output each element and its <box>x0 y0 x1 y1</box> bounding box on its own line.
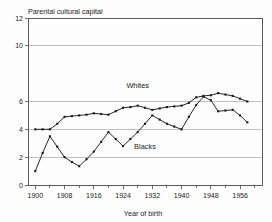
y-tick-label-4: 4 <box>19 126 23 133</box>
series-whites <box>34 92 248 130</box>
data-point <box>85 114 87 116</box>
y-axis-ticks: 02461012 <box>15 15 28 189</box>
chart-figure: 02461012 1900190819161924193219401948195… <box>0 0 272 222</box>
data-point <box>195 104 197 106</box>
data-point <box>93 151 95 153</box>
data-point <box>232 109 234 111</box>
parental-cultural-capital-line-chart: 02461012 1900190819161924193219401948195… <box>0 0 272 222</box>
data-point <box>166 106 168 108</box>
data-point <box>115 138 117 140</box>
data-point <box>202 96 204 98</box>
data-point <box>239 98 241 100</box>
data-point <box>49 135 51 137</box>
x-tick-label-1956: 1956 <box>232 192 248 199</box>
x-tick-label-1948: 1948 <box>203 192 219 199</box>
data-point <box>166 123 168 125</box>
data-point <box>210 99 212 101</box>
data-point <box>64 156 66 158</box>
series-annotation-whites: Whites <box>126 81 149 90</box>
x-tick-label-1924: 1924 <box>115 192 131 199</box>
data-point <box>151 114 153 116</box>
data-point <box>181 105 183 107</box>
y-tick-label-10: 10 <box>15 42 23 49</box>
series-annotation-blacks: Blacks <box>134 142 156 151</box>
data-point <box>115 110 117 112</box>
y-tick-label-0: 0 <box>19 182 23 189</box>
data-point <box>159 107 161 109</box>
data-point <box>100 113 102 115</box>
data-point <box>122 107 124 109</box>
y-tick-label-6: 6 <box>19 98 23 105</box>
data-point <box>137 105 139 107</box>
y-tick-label-2: 2 <box>19 154 23 161</box>
data-point <box>151 109 153 111</box>
data-point <box>100 141 102 143</box>
gridlines-group <box>28 46 262 157</box>
data-point <box>144 107 146 109</box>
data-point <box>224 110 226 112</box>
x-tick-label-1940: 1940 <box>174 192 190 199</box>
data-point <box>232 95 234 97</box>
data-point <box>93 112 95 114</box>
data-point <box>217 110 219 112</box>
data-point <box>188 102 190 104</box>
data-point <box>71 115 73 117</box>
data-point <box>34 170 36 172</box>
data-point <box>85 158 87 160</box>
data-point <box>64 116 66 118</box>
x-axis-ticks: 19001908191619241932194019481956 <box>28 185 255 199</box>
data-series-group <box>34 92 248 172</box>
series-line-whites <box>35 93 247 129</box>
data-point <box>246 121 248 123</box>
data-point <box>56 146 58 148</box>
data-point <box>246 100 248 102</box>
data-point <box>42 152 44 154</box>
data-point <box>188 116 190 118</box>
data-point <box>195 96 197 98</box>
data-point <box>129 106 131 108</box>
data-point <box>122 145 124 147</box>
data-point <box>210 94 212 96</box>
data-point <box>78 114 80 116</box>
data-point <box>34 128 36 130</box>
x-tick-label-1900: 1900 <box>28 192 44 199</box>
data-point <box>137 131 139 133</box>
data-point <box>107 114 109 116</box>
data-point <box>224 93 226 95</box>
data-point <box>49 128 51 130</box>
x-tick-label-1908: 1908 <box>57 192 73 199</box>
data-point <box>42 128 44 130</box>
data-point <box>71 161 73 163</box>
data-point <box>78 165 80 167</box>
x-tick-label-1932: 1932 <box>145 192 161 199</box>
data-point <box>107 131 109 133</box>
data-point <box>173 105 175 107</box>
data-point <box>159 119 161 121</box>
data-point <box>181 128 183 130</box>
data-point <box>129 138 131 140</box>
data-point <box>217 92 219 94</box>
chart-title: Parental cultural capital <box>28 7 103 16</box>
data-point <box>144 123 146 125</box>
x-tick-label-1916: 1916 <box>86 192 102 199</box>
data-point <box>56 123 58 125</box>
y-tick-label-12: 12 <box>15 15 23 22</box>
data-point <box>239 114 241 116</box>
x-axis-label: Year of birth <box>124 209 163 218</box>
data-point <box>173 126 175 128</box>
series-line-blacks <box>35 97 247 171</box>
